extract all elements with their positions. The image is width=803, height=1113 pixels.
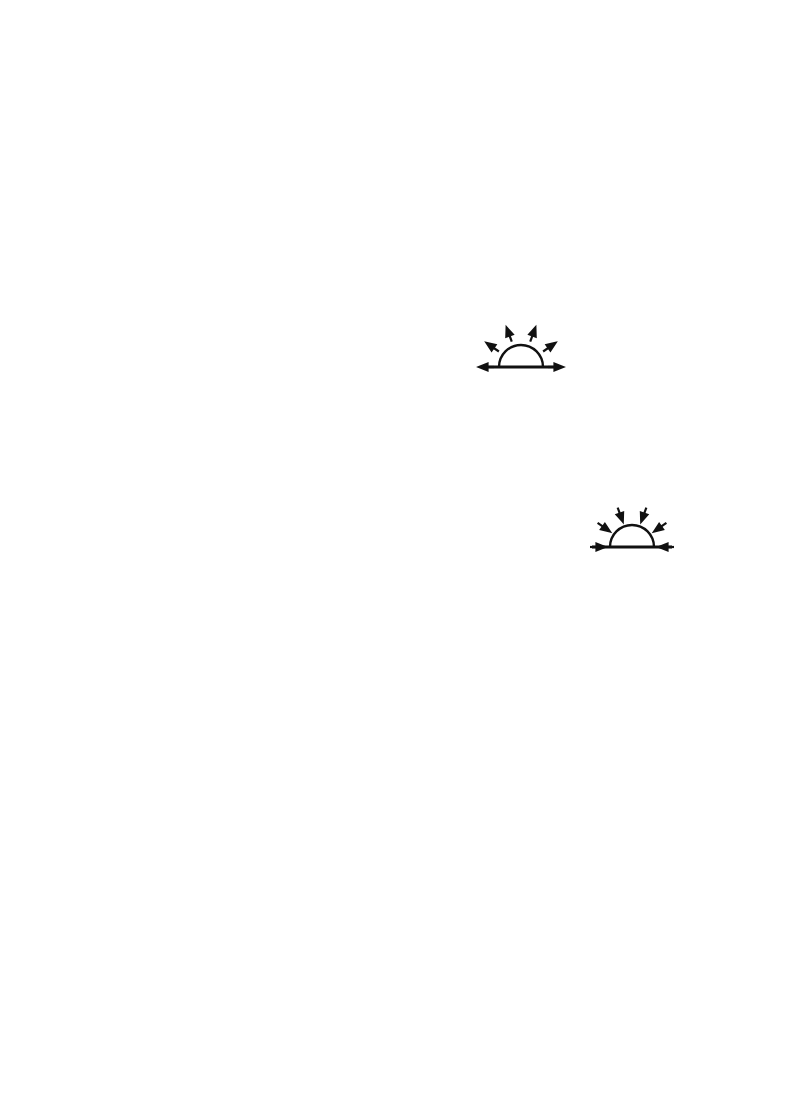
caption-sliver <box>60 1104 760 1113</box>
chart-panel-evening <box>0 480 803 900</box>
chart-panel-morning <box>0 0 803 480</box>
morning-chart-svg <box>0 0 803 480</box>
sunset-icon <box>590 506 674 550</box>
sunrise-icon <box>479 326 563 370</box>
evening-chart-svg <box>0 480 803 900</box>
figure-root <box>0 0 803 1113</box>
